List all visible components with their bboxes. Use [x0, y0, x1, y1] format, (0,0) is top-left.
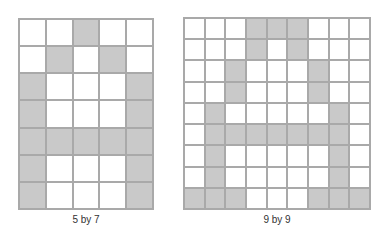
empty-cell — [20, 47, 45, 72]
filled-cell — [350, 189, 369, 208]
filled-cell — [330, 168, 349, 187]
empty-cell — [268, 189, 287, 208]
empty-cell — [226, 40, 245, 59]
empty-cell — [20, 20, 45, 45]
empty-cell — [47, 74, 72, 99]
empty-cell — [74, 47, 99, 72]
filled-cell — [74, 129, 99, 154]
filled-cell — [127, 101, 152, 126]
filled-cell — [74, 20, 99, 45]
empty-cell — [206, 19, 225, 38]
filled-cell — [20, 156, 45, 181]
empty-cell — [350, 168, 369, 187]
empty-cell — [226, 146, 245, 165]
empty-cell — [330, 19, 349, 38]
filled-cell — [247, 125, 266, 144]
empty-cell — [350, 61, 369, 80]
empty-cell — [309, 104, 328, 123]
empty-cell — [247, 83, 266, 102]
empty-cell — [288, 168, 307, 187]
filled-cell — [20, 183, 45, 208]
empty-cell — [309, 146, 328, 165]
filled-cell — [309, 83, 328, 102]
empty-cell — [100, 156, 125, 181]
empty-cell — [100, 20, 125, 45]
dot-matrix-9x9-grid — [183, 17, 371, 210]
filled-cell — [330, 146, 349, 165]
empty-cell — [288, 189, 307, 208]
empty-cell — [247, 168, 266, 187]
empty-cell — [268, 61, 287, 80]
filled-cell — [47, 129, 72, 154]
empty-cell — [185, 146, 204, 165]
filled-cell — [268, 125, 287, 144]
filled-cell — [20, 101, 45, 126]
filled-cell — [206, 189, 225, 208]
filled-cell — [127, 156, 152, 181]
empty-cell — [268, 168, 287, 187]
empty-cell — [74, 74, 99, 99]
filled-cell — [206, 104, 225, 123]
empty-cell — [185, 104, 204, 123]
empty-cell — [350, 146, 369, 165]
filled-cell — [309, 61, 328, 80]
empty-cell — [185, 40, 204, 59]
filled-cell — [309, 189, 328, 208]
dot-matrix-5x7-grid — [18, 18, 154, 210]
filled-cell — [309, 125, 328, 144]
empty-cell — [226, 104, 245, 123]
empty-cell — [226, 19, 245, 38]
empty-cell — [309, 19, 328, 38]
filled-cell — [20, 129, 45, 154]
empty-cell — [350, 19, 369, 38]
empty-cell — [288, 104, 307, 123]
empty-cell — [47, 20, 72, 45]
empty-cell — [288, 146, 307, 165]
empty-cell — [288, 61, 307, 80]
empty-cell — [247, 61, 266, 80]
filled-cell — [47, 47, 72, 72]
empty-cell — [206, 40, 225, 59]
empty-cell — [206, 83, 225, 102]
empty-cell — [127, 20, 152, 45]
filled-cell — [206, 146, 225, 165]
empty-cell — [185, 61, 204, 80]
filled-cell — [247, 19, 266, 38]
empty-cell — [268, 40, 287, 59]
empty-cell — [247, 146, 266, 165]
filled-cell — [330, 189, 349, 208]
filled-cell — [206, 168, 225, 187]
empty-cell — [206, 61, 225, 80]
empty-cell — [268, 146, 287, 165]
empty-cell — [330, 40, 349, 59]
filled-cell — [288, 40, 307, 59]
caption-5x7: 5 by 7 — [18, 214, 154, 225]
empty-cell — [100, 74, 125, 99]
filled-cell — [288, 125, 307, 144]
empty-cell — [47, 101, 72, 126]
empty-cell — [74, 183, 99, 208]
empty-cell — [309, 40, 328, 59]
caption-9x9: 9 by 9 — [183, 214, 371, 225]
empty-cell — [185, 168, 204, 187]
filled-cell — [206, 125, 225, 144]
filled-cell — [100, 129, 125, 154]
empty-cell — [350, 104, 369, 123]
filled-cell — [127, 129, 152, 154]
empty-cell — [288, 83, 307, 102]
empty-cell — [226, 168, 245, 187]
empty-cell — [350, 40, 369, 59]
empty-cell — [47, 183, 72, 208]
empty-cell — [268, 83, 287, 102]
filled-cell — [185, 189, 204, 208]
filled-cell — [268, 19, 287, 38]
filled-cell — [226, 125, 245, 144]
filled-cell — [20, 74, 45, 99]
empty-cell — [185, 125, 204, 144]
empty-cell — [309, 168, 328, 187]
empty-cell — [100, 183, 125, 208]
filled-cell — [127, 74, 152, 99]
filled-cell — [100, 47, 125, 72]
empty-cell — [127, 47, 152, 72]
empty-cell — [350, 83, 369, 102]
